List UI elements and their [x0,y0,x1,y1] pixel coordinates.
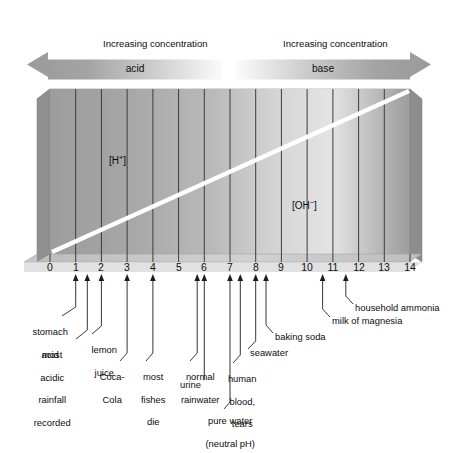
marker-arrow-normal-rainwater [194,274,200,350]
box-right-face [410,89,422,262]
axis-tick-12: 12 [351,262,367,273]
h-plus-ion-label-text: [H [109,155,119,166]
axis-tick-6: 6 [196,262,212,273]
label-blood-line2: blood, [229,396,255,407]
label-human-blood-tears: human blood, tears [212,362,262,441]
oh-minus-ion-bracket: ] [314,200,317,211]
oh-minus-ion-label-text: [OH [292,200,310,211]
label-lemon-juice-line1: lemon [91,344,117,355]
axis-tick-14: 14 [402,262,418,273]
label-household-ammonia: household ammonia [355,302,439,313]
label-most-fishes-die: most fishes die [126,360,170,439]
leader-lemon-juice [92,318,101,334]
axis-tick-7: 7 [222,262,238,273]
label-coca-cola-line1: Coca- [100,371,125,382]
label-most-acidic-line4: recorded [34,417,71,428]
base-label: base [303,63,343,74]
box-base-slab [37,254,422,262]
label-blood-line3: tears [232,418,253,429]
label-most-acidic-line2: acidic [40,372,64,383]
marker-arrow-household-ammonia [343,274,349,292]
marker-arrow-lemon-juice [99,274,105,318]
label-milk-of-magnesia: milk of magnesia [332,315,402,326]
axis-tick-9: 9 [273,262,289,273]
label-most-acidic-rainfall: most acidic rainfall recorded [14,338,80,440]
h-plus-ion-label: [H+] [109,152,126,167]
marker-arrow-stomach-acid [73,274,79,300]
marker-arrow-acid-rainfall [85,274,91,325]
oh-minus-ion-label: [OH−] [292,197,317,212]
leader-household-ammonia [346,292,353,304]
box-left-face [37,89,50,262]
leader-baking-soda [266,320,273,333]
label-blood-line1: human [228,373,257,384]
axis-tick-2: 2 [93,262,109,273]
label-coca-cola-line2: Cola [103,394,122,405]
marker-arrow-coca-cola [124,274,130,350]
marker-arrow-milk-of-magnesia [320,274,326,305]
leader-stomach-acid [62,300,76,316]
label-fishes-line2: fishes [141,394,166,405]
axis-tick-0: 0 [42,262,58,273]
label-most-acidic-line1: most [42,349,62,360]
ph-bar-box [24,89,422,272]
label-fishes-line1: most [143,371,163,382]
axis-tick-13: 13 [376,262,392,273]
axis-tick-8: 8 [248,262,264,273]
label-fishes-line3: die [147,416,160,427]
axis-tick-1: 1 [68,262,84,273]
label-seawater: seawater [250,347,288,358]
axis-tick-3: 3 [119,262,135,273]
h-plus-ion-bracket: ] [123,155,126,166]
box-base-wedge [24,254,37,262]
label-coca-cola: Coca- Cola [82,360,132,416]
label-most-acidic-line3: rainfall [38,394,66,405]
acid-label: acid [115,63,155,74]
marker-arrow-human-blood [238,274,244,350]
axis-tick-4: 4 [145,262,161,273]
marker-arrow-seawater [253,274,259,335]
label-baking-soda: baking soda [275,331,326,342]
marker-arrow-baking-soda [263,274,269,320]
label-stomach-acid-line1: stomach [32,326,67,337]
label-urine: urine [180,379,201,390]
axis-tick-5: 5 [171,262,187,273]
marker-arrow-fishes-die [150,274,156,350]
leader-milk-of-magnesia [323,305,330,317]
axis-tick-11: 11 [325,262,341,273]
axis-tick-10: 10 [299,262,315,273]
